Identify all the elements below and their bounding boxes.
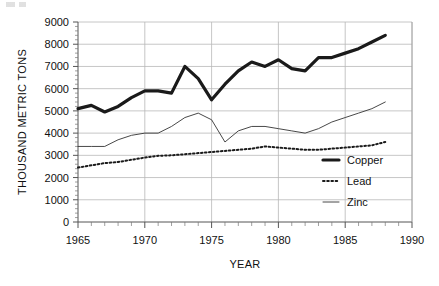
y-axis-tick-label: 8000 <box>45 38 69 50</box>
x-axis-tick-label: 1970 <box>133 234 157 246</box>
y-axis-title: THOUSAND METRIC TONS <box>16 49 28 195</box>
series-line-lead <box>78 142 385 168</box>
x-axis-tick-label: 1980 <box>266 234 290 246</box>
y-axis-tick-label: 2000 <box>45 172 69 184</box>
y-axis-tick-label: 3000 <box>45 149 69 161</box>
legend-label-copper: Copper <box>347 154 383 166</box>
chart-page: 0100020003000400050006000700080009000196… <box>0 0 439 286</box>
y-axis-tick-label: 9000 <box>45 16 69 28</box>
metals-production-line-chart: 0100020003000400050006000700080009000196… <box>0 0 439 286</box>
legend-label-zinc: Zinc <box>347 196 368 208</box>
series-line-copper <box>78 35 385 112</box>
y-axis-tick-label: 6000 <box>45 83 69 95</box>
y-axis-tick-label: 5000 <box>45 105 69 117</box>
legend-label-lead: Lead <box>347 175 371 187</box>
x-axis-tick-label: 1975 <box>199 234 223 246</box>
x-axis-tick-label: 1985 <box>333 234 357 246</box>
x-axis-tick-label: 1965 <box>66 234 90 246</box>
series-line-zinc <box>78 102 385 146</box>
legend-item-zinc: Zinc <box>323 196 368 208</box>
y-axis-tick-label: 0 <box>63 216 69 228</box>
legend-item-lead: Lead <box>323 175 371 187</box>
x-axis-title: YEAR <box>229 258 260 270</box>
y-axis-tick-label: 7000 <box>45 60 69 72</box>
x-axis-tick-label: 1990 <box>400 234 424 246</box>
y-axis-tick-label: 4000 <box>45 127 69 139</box>
legend-item-copper: Copper <box>323 154 383 166</box>
y-axis-tick-label: 1000 <box>45 194 69 206</box>
